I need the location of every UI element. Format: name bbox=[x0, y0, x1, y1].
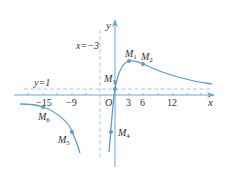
label-m2: M2 bbox=[140, 51, 153, 64]
tick-label-6: 6 bbox=[140, 97, 145, 108]
point-m4 bbox=[109, 130, 113, 134]
label-m1: M1 bbox=[124, 48, 137, 61]
function-graph: y x O −15 −9 3 6 12 x=−3 y=1 M1 M2 M3 M4… bbox=[0, 0, 232, 181]
point-m2 bbox=[141, 62, 145, 66]
tick-label-12: 12 bbox=[167, 97, 177, 108]
point-m5 bbox=[70, 130, 74, 134]
label-m6: M6 bbox=[37, 111, 50, 124]
tick-label-neg15: −15 bbox=[36, 97, 52, 108]
label-m4: M4 bbox=[117, 127, 130, 140]
right-branch-curve bbox=[109, 61, 212, 152]
label-m5: M5 bbox=[57, 134, 70, 147]
point-m3 bbox=[113, 87, 117, 91]
tick-label-3: 3 bbox=[126, 97, 131, 108]
y-axis-label: y bbox=[105, 19, 111, 31]
x-axis-label: x bbox=[207, 96, 213, 108]
vertical-asymptote-label: x=−3 bbox=[75, 40, 99, 51]
tick-label-neg9: −9 bbox=[66, 97, 77, 108]
left-branch-curve bbox=[20, 104, 80, 153]
horizontal-asymptote-label: y=1 bbox=[33, 77, 50, 88]
origin-label: O bbox=[105, 97, 112, 108]
label-m3: M3 bbox=[103, 73, 116, 86]
point-m1 bbox=[127, 59, 131, 63]
